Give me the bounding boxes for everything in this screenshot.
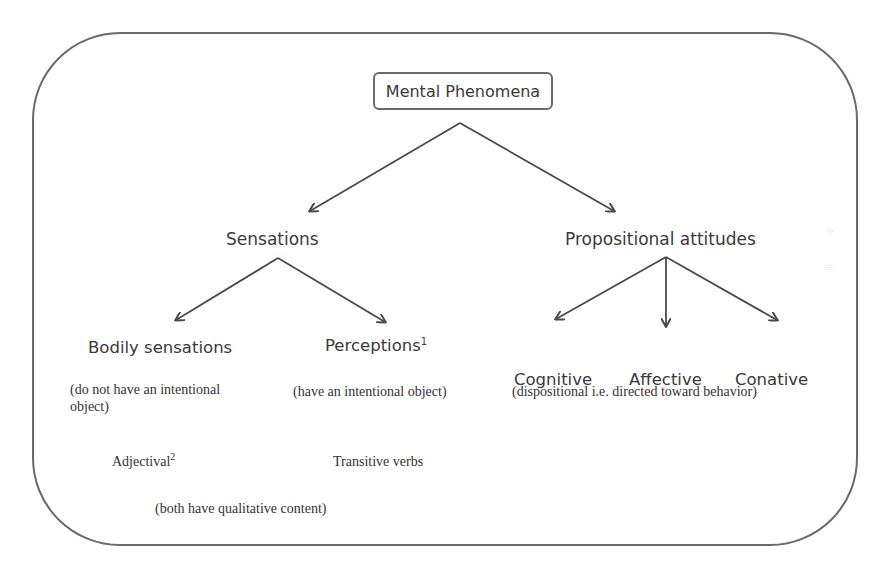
adjectival-label: Adjectival2	[112, 453, 175, 470]
bodily-note-line2: object)	[70, 398, 220, 415]
arrow-to-propositional-attitudes	[460, 123, 614, 211]
arrow-to-cognitive	[556, 257, 666, 319]
perceptions-node: Perceptions1	[325, 336, 427, 355]
root-node-label: Mental Phenomena	[386, 82, 540, 101]
arrow-to-bodily-sensations	[176, 258, 278, 320]
arrow-to-conative	[666, 257, 777, 320]
root-node: Mental Phenomena	[373, 72, 553, 110]
arrow-to-perceptions	[278, 258, 385, 322]
adjectival-text: Adjectival	[112, 454, 170, 469]
bodily-note-line1: (do not have an intentional	[70, 381, 220, 398]
scan-artifact: ⁘	[826, 262, 834, 273]
shared-qualitative-note: (both have qualitative content)	[155, 500, 326, 517]
bodily-sensations-node: Bodily sensations	[88, 338, 232, 357]
perceptions-note: (have an intentional object)	[293, 383, 447, 400]
arrow-to-sensations	[310, 123, 460, 211]
footnote-marker-2: 2	[170, 451, 175, 462]
propositional-attitudes-node: Propositional attitudes	[565, 229, 756, 249]
bodily-sensations-note: (do not have an intentional object)	[70, 381, 220, 415]
footnote-marker-1: 1	[421, 336, 427, 347]
perceptions-label: Perceptions	[325, 336, 421, 355]
sensations-node: Sensations	[226, 229, 319, 249]
propositional-attitudes-note: (dispositional i.e. directed toward beha…	[512, 383, 757, 400]
scan-artifact: ⁘	[826, 226, 834, 237]
transitive-verbs-label: Transitive verbs	[333, 453, 423, 470]
